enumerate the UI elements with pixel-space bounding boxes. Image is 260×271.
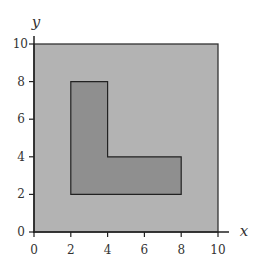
x-tick-label: 10 bbox=[210, 243, 225, 257]
x-tick-label: 4 bbox=[104, 243, 112, 257]
x-tick-label: 8 bbox=[177, 243, 185, 257]
y-tick-label: 2 bbox=[17, 187, 25, 201]
y-tick-label: 10 bbox=[13, 37, 28, 51]
x-axis-label: x bbox=[240, 222, 249, 240]
y-tick-label: 6 bbox=[17, 112, 25, 126]
y-tick-label: 4 bbox=[17, 150, 25, 164]
y-axis-label: y bbox=[31, 13, 41, 31]
x-tick-label: 2 bbox=[67, 243, 75, 257]
y-tick-label: 8 bbox=[17, 75, 25, 89]
x-tick-label: 0 bbox=[30, 243, 38, 257]
coordinate-plane: 0 2 4 6 8 10 0 2 4 6 8 10 y x bbox=[0, 0, 260, 271]
square-region bbox=[34, 44, 218, 232]
x-tick-label: 6 bbox=[141, 243, 149, 257]
y-tick-label: 0 bbox=[17, 225, 25, 239]
